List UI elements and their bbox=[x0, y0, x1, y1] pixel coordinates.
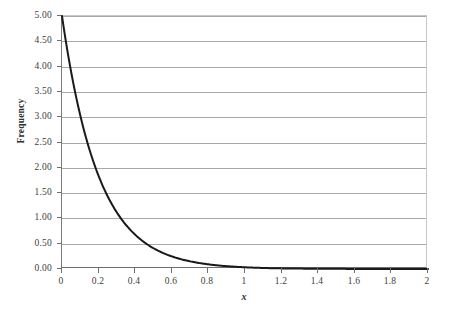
plot-area bbox=[61, 15, 427, 268]
x-tick-mark bbox=[171, 268, 172, 273]
y-tick-label: 1.50 bbox=[0, 187, 52, 197]
y-tick-label: 4.50 bbox=[0, 35, 52, 45]
y-axis: 5.004.504.003.503.002.502.001.501.000.50… bbox=[0, 0, 52, 314]
y-tick-label: 2.50 bbox=[0, 137, 52, 147]
x-tick-label: 2 bbox=[407, 276, 447, 287]
curve-svg bbox=[62, 16, 428, 269]
x-tick-mark bbox=[427, 268, 428, 273]
x-tick-mark bbox=[98, 268, 99, 273]
y-tick-mark bbox=[57, 217, 61, 218]
x-tick-mark bbox=[354, 268, 355, 273]
y-tick-label: 3.00 bbox=[0, 111, 52, 121]
y-tick-mark bbox=[57, 192, 61, 193]
y-tick-mark bbox=[57, 91, 61, 92]
y-tick-label: 0.50 bbox=[0, 238, 52, 248]
x-tick-label: 1.8 bbox=[370, 276, 410, 287]
x-tick-label: 0 bbox=[41, 276, 81, 287]
x-tick-label: 1.6 bbox=[334, 276, 374, 287]
x-tick-mark bbox=[61, 268, 62, 273]
chart-container: 5.004.504.003.503.002.502.001.501.000.50… bbox=[0, 0, 451, 314]
x-tick-label: 1.2 bbox=[261, 276, 301, 287]
y-tick-label: 2.00 bbox=[0, 162, 52, 172]
x-tick-label: 0.4 bbox=[114, 276, 154, 287]
y-tick-label: 1.00 bbox=[0, 212, 52, 222]
x-tick-mark bbox=[207, 268, 208, 273]
y-tick-label: 3.50 bbox=[0, 86, 52, 96]
x-tick-mark bbox=[134, 268, 135, 273]
y-tick-mark bbox=[57, 116, 61, 117]
y-tick-mark bbox=[57, 15, 61, 16]
y-tick-mark bbox=[57, 167, 61, 168]
y-tick-mark bbox=[57, 66, 61, 67]
x-tick-mark bbox=[317, 268, 318, 273]
x-tick-mark bbox=[390, 268, 391, 273]
y-axis-title: Frequency bbox=[16, 76, 26, 166]
x-tick-mark bbox=[281, 268, 282, 273]
y-tick-mark bbox=[57, 142, 61, 143]
y-tick-label: 0.00 bbox=[0, 263, 52, 273]
x-tick-label: 0.8 bbox=[187, 276, 227, 287]
data-series-line bbox=[62, 16, 428, 269]
x-tick-label: 1 bbox=[224, 276, 264, 287]
y-tick-label: 5.00 bbox=[0, 10, 52, 20]
y-tick-mark bbox=[57, 243, 61, 244]
x-tick-mark bbox=[244, 268, 245, 273]
x-tick-label: 0.6 bbox=[151, 276, 191, 287]
x-tick-label: 0.2 bbox=[78, 276, 118, 287]
y-tick-label: 4.00 bbox=[0, 61, 52, 71]
x-axis-title: x bbox=[61, 291, 427, 302]
x-tick-label: 1.4 bbox=[297, 276, 337, 287]
y-tick-mark bbox=[57, 40, 61, 41]
